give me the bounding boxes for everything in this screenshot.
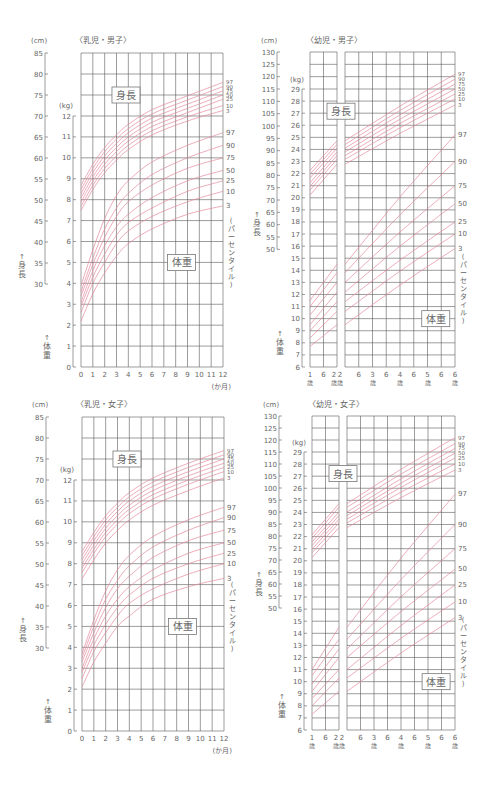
height-tick-label: 80 <box>266 172 275 180</box>
x-tick-label: 6 <box>385 734 390 742</box>
arrow-icon: ↑ <box>19 253 25 261</box>
height-tick-label: 85 <box>266 160 275 168</box>
weight-tick-label: 20 <box>291 194 300 202</box>
chart-child-boy: 5055606570758085909510010511011512012513… <box>253 35 467 386</box>
weight-tick-label: 6 <box>68 602 73 610</box>
weight-tick-label: 11 <box>63 497 72 505</box>
x-tick-label: 1 <box>91 371 95 379</box>
weight-tick-label: 14 <box>291 267 300 275</box>
height-unit: (cm) <box>32 401 48 409</box>
x-tick-label: 6 <box>358 734 363 742</box>
height-tick-label: 45 <box>35 582 44 590</box>
height-tick-label: 95 <box>266 135 275 143</box>
height-tick-label: 90 <box>266 147 275 155</box>
height-tick-label: 130 <box>264 413 277 421</box>
height-tick-label: 55 <box>35 540 44 548</box>
weight-tick-label: 8 <box>67 196 71 204</box>
percentile-axis-label: ル <box>229 637 236 645</box>
height-tick-label: 75 <box>34 92 43 100</box>
height-tick-label: 40 <box>34 239 43 247</box>
percentile-axis-label: ( <box>462 253 465 261</box>
x-tick-label: 6 <box>151 735 156 743</box>
percentile-axis-label: ー <box>229 597 236 605</box>
height-tick-label: 60 <box>35 519 44 527</box>
percentile-axis-label: ー <box>228 233 235 241</box>
weight-tick-label: 6 <box>298 727 303 735</box>
x-tick-unit: 歳 <box>309 742 315 749</box>
height-tick-label: 30 <box>34 281 43 289</box>
weight-tick-label: 16 <box>293 606 302 614</box>
weight-tick-label: 29 <box>291 86 300 94</box>
weight-tick-label: 22 <box>291 170 300 178</box>
percentile-label: 3 <box>458 467 462 473</box>
weight-tick-label: 19 <box>291 206 300 214</box>
percentile-label: 50 <box>458 200 467 208</box>
percentile-axis-label: ( <box>231 581 234 589</box>
arrow-icon: ↑ <box>44 334 50 342</box>
weight-tick-label: 4 <box>67 280 72 288</box>
weight-tick-label: 13 <box>291 279 300 287</box>
weight-tick-label: 21 <box>293 545 302 553</box>
weight-tick-label: 12 <box>62 113 71 121</box>
x-tick-label: 2 <box>338 371 342 379</box>
percentile-axis-label: イ <box>460 664 467 672</box>
x-tick-label: 2 <box>332 371 336 379</box>
percentile-label: 3 <box>458 245 462 253</box>
weight-tick-label: 8 <box>68 560 72 568</box>
percentile-axis-label: タ <box>229 620 236 629</box>
percentile-axis-label: ) <box>462 317 465 325</box>
height-tick-label: 85 <box>35 414 44 422</box>
percentile-axis-label: セ <box>460 640 467 648</box>
weight-axis-label: 体 <box>278 700 286 710</box>
height-axis-label: 身 <box>18 260 26 270</box>
x-tick-label: 6 <box>321 371 326 379</box>
percentile-axis-label: ) <box>231 645 234 653</box>
x-tick-label: 4 <box>399 734 404 742</box>
x-tick-label: 6 <box>150 371 155 379</box>
growth-charts-canvas: 303540455055606570758085(cm)012345678910… <box>0 0 489 786</box>
height-tick-label: 60 <box>34 155 43 163</box>
x-tick-label: 6 <box>412 734 417 742</box>
weight-tick-label: 7 <box>67 217 71 225</box>
height-tick-label: 65 <box>268 569 277 577</box>
height-axis-label: 身 <box>253 218 261 228</box>
height-unit: (cm) <box>31 37 47 45</box>
weight-tick-label: 20 <box>293 557 302 565</box>
weight-tick-label: 25 <box>293 497 302 505</box>
weight-tick-label: 24 <box>293 509 302 517</box>
arrow-icon: ↑ <box>20 617 26 625</box>
x-tick-label: 3 <box>370 371 374 379</box>
x-tick-label: 4 <box>398 371 403 379</box>
height-tick-label: 75 <box>266 184 275 192</box>
weight-axis-label: 体 <box>276 337 284 347</box>
weight-box: 体重 <box>426 313 446 325</box>
weight-tick-label: 15 <box>293 618 302 626</box>
weight-tick-label: 10 <box>63 518 72 526</box>
percentile-axis-label: セ <box>460 277 467 285</box>
weight-tick-label: 0 <box>68 728 72 736</box>
height-tick-label: 120 <box>264 437 277 445</box>
height-axis-label: 身 <box>255 578 263 588</box>
height-tick-label: 105 <box>264 473 277 481</box>
weight-tick-label: 5 <box>68 623 72 631</box>
height-tick-label: 50 <box>266 246 275 254</box>
height-tick-label: 55 <box>34 176 43 184</box>
percentile-label: 25 <box>458 218 467 226</box>
x-tick-unit: 歳 <box>452 742 458 749</box>
weight-tick-label: 18 <box>293 581 302 589</box>
weight-axis-label: 重 <box>44 714 52 724</box>
x-tick-label: 2 <box>102 371 106 379</box>
x-tick-unit: 歳 <box>452 379 458 386</box>
weight-tick-label: 25 <box>291 134 300 142</box>
weight-box: 体重 <box>172 256 192 268</box>
height-tick-label: 60 <box>268 581 277 589</box>
height-tick-label: 105 <box>262 110 275 118</box>
weight-tick-label: 6 <box>296 364 301 372</box>
x-tick-label: 3 <box>372 734 376 742</box>
height-tick-label: 30 <box>35 645 44 653</box>
weight-tick-label: 7 <box>298 714 302 722</box>
percentile-axis-label: イ <box>229 629 236 637</box>
chart-infant-girl: 303540455055606570758085(cm)012345678910… <box>19 399 236 755</box>
weight-axis-label: 重 <box>43 350 51 360</box>
height-tick-label: 130 <box>262 49 275 57</box>
